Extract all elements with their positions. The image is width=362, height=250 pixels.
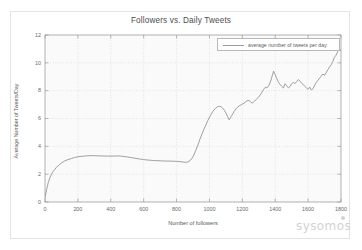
legend-line-swatch — [223, 45, 244, 46]
x-tick-label: 600 — [132, 206, 156, 212]
y-tick-label: 0 — [27, 199, 41, 205]
x-tick-label: 0 — [33, 206, 57, 212]
x-tick-label: 1200 — [230, 206, 254, 212]
y-tick-label: 12 — [27, 32, 41, 38]
y-axis-title: Average Number of Tweets/Day — [13, 61, 19, 181]
y-tick-label: 8 — [27, 87, 41, 93]
chart-figure: Followers vs. Daily Tweets 024681012 020… — [0, 0, 362, 250]
x-tick-label: 1000 — [197, 206, 221, 212]
x-tick-label: 1600 — [296, 206, 320, 212]
sysomos-logo-dot-icon — [341, 216, 345, 220]
legend-label: average number of tweets per day — [248, 42, 327, 48]
y-tick-label: 4 — [27, 143, 41, 149]
x-tick-label: 1800 — [329, 206, 353, 212]
y-tick-label: 6 — [27, 115, 41, 121]
x-tick-label: 1400 — [263, 206, 287, 212]
y-tick-label: 10 — [27, 60, 41, 66]
x-tick-label: 200 — [66, 206, 90, 212]
x-tick-label: 800 — [165, 206, 189, 212]
x-tick-label: 400 — [99, 206, 123, 212]
chart-legend: average number of tweets per day — [217, 38, 340, 51]
sysomos-watermark: sysomos — [296, 219, 351, 233]
y-tick-label: 2 — [27, 171, 41, 177]
